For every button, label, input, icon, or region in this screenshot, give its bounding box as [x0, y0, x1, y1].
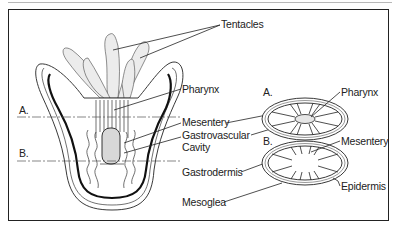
anemone-body — [36, 34, 183, 210]
section-a-label-right: A. — [263, 86, 273, 98]
anemone-diagram: A. B. Tentacles Pharynx Mesentery Gastro… — [0, 0, 395, 229]
tentacle — [122, 59, 135, 98]
gastrovascular-column — [102, 128, 120, 164]
mesentery-label-left: Mesentery — [182, 116, 230, 128]
epidermis-label: Epidermis — [341, 180, 386, 192]
pharynx-label-left: Pharynx — [182, 83, 220, 95]
section-b-label-right: B. — [263, 135, 273, 147]
mesentery-label-right: Mesentery — [341, 135, 389, 147]
cross-section-b — [262, 141, 348, 185]
pharynx-label-right: Pharynx — [341, 86, 379, 98]
section-b-label-left: B. — [19, 147, 29, 159]
mesoglea-leader — [224, 183, 282, 202]
gastrodermis-label: Gastrodermis — [182, 166, 243, 178]
tentacle — [105, 34, 120, 98]
gastrovascular-label-line1: Gastrovascular — [182, 129, 251, 141]
section-a-label-left: A. — [19, 104, 29, 116]
mesoglea-label: Mesoglea — [182, 196, 226, 208]
gastrovascular-label-line2: Cavity — [182, 141, 211, 153]
tentacle — [83, 58, 110, 98]
cross-section-a — [262, 98, 348, 140]
tentacles-leader — [113, 25, 220, 58]
tentacles-label: Tentacles — [221, 18, 264, 30]
